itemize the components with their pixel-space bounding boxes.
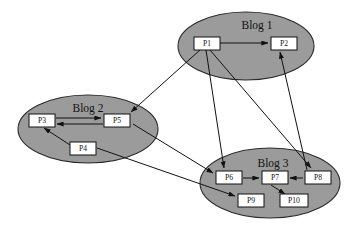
node-label-p1: P1	[203, 39, 211, 48]
node-p6[interactable]: P6	[216, 171, 242, 184]
node-label-p2: P2	[280, 39, 288, 48]
node-p3[interactable]: P3	[29, 114, 55, 127]
node-label-p10: P10	[288, 196, 300, 205]
node-p4[interactable]: P4	[70, 142, 96, 155]
edge-p1-to-p5	[131, 50, 200, 112]
cluster-label-blog1: Blog 1	[242, 19, 273, 32]
node-p7[interactable]: P7	[262, 171, 288, 184]
node-label-p9: P9	[247, 196, 255, 205]
node-label-p5: P5	[113, 116, 121, 125]
cluster-label-blog3: Blog 3	[258, 157, 289, 170]
node-label-p8: P8	[314, 173, 322, 182]
node-label-p6: P6	[225, 173, 233, 182]
node-p8[interactable]: P8	[305, 171, 331, 184]
node-label-p4: P4	[79, 144, 87, 153]
node-p9[interactable]: P9	[238, 194, 264, 207]
cluster-label-blog2: Blog 2	[73, 102, 104, 115]
node-p5[interactable]: P5	[104, 114, 130, 127]
node-p1[interactable]: P1	[194, 37, 220, 50]
blog-link-diagram: P1P2P3P5P4P6P7P8P9P10 Blog 1Blog 2Blog 3	[0, 0, 358, 228]
node-p10[interactable]: P10	[280, 194, 308, 207]
node-label-p7: P7	[271, 173, 279, 182]
node-label-p3: P3	[38, 116, 46, 125]
node-p2[interactable]: P2	[271, 37, 297, 50]
graph-canvas: P1P2P3P5P4P6P7P8P9P10 Blog 1Blog 2Blog 3	[0, 0, 358, 228]
